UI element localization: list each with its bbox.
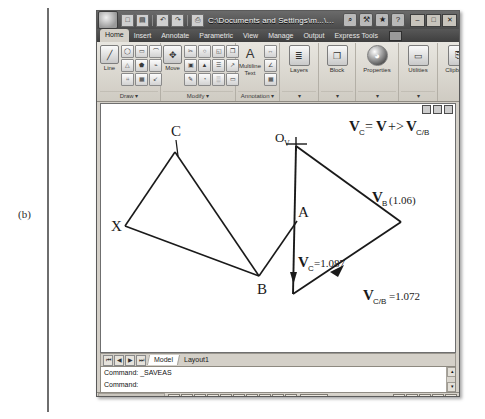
modify-tool-grid: ✂ ○ ◱ ❐ ▣ ▲ ☰ ↗ ✎ ◔ ░ ▭ — [184, 45, 239, 86]
block-label: Block — [330, 67, 345, 74]
plot-icon[interactable]: ⎙ — [191, 14, 204, 27]
dimension-icon[interactable]: ↔ — [264, 45, 277, 58]
toolbar-lock-icon[interactable]: ⚿ — [432, 394, 444, 398]
annotation-scale-icon[interactable]: A — [393, 394, 405, 398]
lineweight-icon[interactable]: ▬ — [285, 394, 297, 398]
layout-tab-model[interactable]: Model — [147, 355, 179, 365]
quick-access-toolbar: □ ▤ ↶ ↷ ⎙ — [120, 14, 204, 27]
infocenter-icon[interactable]: ⚒ — [359, 13, 373, 27]
move-button[interactable]: ✥ Move — [163, 45, 182, 72]
utilities-button[interactable]: ▭ Utilities — [401, 45, 435, 74]
grid-display-icon[interactable]: ▦ — [181, 394, 193, 398]
trim-icon[interactable]: ✂ — [184, 45, 197, 58]
polygon-icon[interactable]: △ — [121, 59, 134, 72]
coordinate-readout[interactable]: 7.5663, 2.7586, 0.0000 — [98, 393, 165, 397]
multiline-text-button[interactable]: A Multiline Text — [238, 45, 262, 77]
svg-text:B: B — [382, 199, 387, 208]
annotation-visibility-icon[interactable]: ▲ — [406, 394, 418, 398]
last-layout-icon[interactable]: ⏭ — [136, 355, 146, 366]
model-space-button[interactable]: MODEL — [300, 394, 328, 398]
new-icon[interactable]: □ — [121, 14, 134, 27]
panel-block: ❐ Block ▾ — [319, 43, 356, 101]
svg-text:C: C — [171, 123, 181, 139]
tab-home[interactable]: Home — [100, 29, 129, 42]
layout-tab-layout1[interactable]: Layout1 — [177, 355, 215, 365]
panel-properties: ◕ Properties ▾ — [356, 43, 399, 101]
fillet-icon[interactable]: ◱ — [212, 45, 225, 58]
scale-icon[interactable]: ☰ — [212, 59, 225, 72]
dynamic-ucs-icon[interactable]: ⬌ — [259, 394, 271, 398]
tab-manage[interactable]: Manage — [263, 31, 298, 40]
tab-insert[interactable]: Insert — [129, 31, 157, 40]
svg-text:+>: +> — [388, 119, 404, 134]
maximize-button[interactable]: □ — [426, 14, 441, 27]
window-controls: – □ ✕ — [410, 14, 457, 27]
dynamic-input-icon[interactable]: ✚ — [272, 394, 284, 398]
ellipse-icon[interactable]: ⌗ — [121, 73, 134, 86]
layers-button[interactable]: ≣ Layers — [282, 45, 316, 74]
mirror-icon[interactable]: ▲ — [198, 59, 211, 72]
scroll-down-icon[interactable]: ▾ — [447, 382, 456, 392]
leader-icon[interactable]: ∠ — [264, 59, 277, 72]
drawing-canvas[interactable]: X C A B O V V C = V +> V C/B V B (1.06) … — [100, 103, 456, 353]
allow-ucs-icon[interactable]: ⌐ — [246, 394, 258, 398]
block-button[interactable]: ❐ Block — [321, 45, 353, 74]
draw-tool-grid: ◯ ▭ ⌒ △ ⬟ ⌁ ⌗ ▦ ↙ — [121, 45, 162, 86]
command-prompt-line[interactable]: Command: — [101, 379, 455, 391]
svg-text:(1.06): (1.06) — [389, 194, 416, 207]
workspace-switch-icon[interactable]: ⚙ — [419, 394, 431, 398]
polyline-icon[interactable]: ⬟ — [135, 59, 148, 72]
redo-icon[interactable]: ↷ — [171, 14, 184, 27]
command-window[interactable]: Command: _SAVEAS Command: ▴ ▾ — [100, 366, 456, 393]
ortho-mode-icon[interactable]: ∟ — [194, 394, 206, 398]
autocad-app-menu-icon[interactable] — [98, 11, 118, 29]
panel-draw-title[interactable]: Draw ▾ — [100, 91, 158, 101]
search-icon[interactable]: ⌕ — [343, 13, 357, 27]
ribbon-overflow-icon[interactable] — [389, 31, 402, 41]
minimize-button[interactable]: – — [410, 14, 425, 27]
tab-view[interactable]: View — [238, 31, 263, 40]
undo-icon[interactable]: ↶ — [156, 14, 169, 27]
object-snap-tracking-icon[interactable]: ∠ — [233, 394, 245, 398]
tab-parametric[interactable]: Parametric — [194, 31, 238, 40]
table-icon[interactable]: ▦ — [264, 73, 277, 86]
properties-label: Properties — [363, 67, 390, 74]
rectangle-icon[interactable]: ▭ — [135, 45, 148, 58]
erase-icon[interactable]: ░ — [212, 73, 225, 86]
svg-text:=: = — [365, 119, 373, 134]
tab-annotate[interactable]: Annotate — [156, 31, 194, 40]
panel-modify-title[interactable]: Modify ▾ — [163, 91, 233, 101]
properties-button[interactable]: ◕ Properties — [358, 45, 396, 74]
close-button[interactable]: ✕ — [442, 14, 457, 27]
communication-center-icon[interactable]: ★ — [375, 13, 389, 27]
panel-annotation: A Multiline Text ↔ ∠ ▦ Annotation ▾ — [236, 43, 280, 101]
autocad-window: □ ▤ ↶ ↷ ⎙ C:\Documents and Settings\m...… — [96, 10, 460, 397]
clean-screen-icon[interactable]: ⛶ — [445, 394, 457, 398]
polar-tracking-icon[interactable]: ∠ — [207, 394, 219, 398]
panel-block-title[interactable]: ▾ — [321, 91, 353, 101]
clipboard-button[interactable]: ⎘ Clipboard — [440, 45, 460, 74]
circle-icon[interactable]: ◯ — [121, 45, 134, 58]
rotate-icon[interactable]: ○ — [198, 45, 211, 58]
explode-icon[interactable]: ✎ — [184, 73, 197, 86]
object-snap-icon[interactable]: □ — [220, 394, 232, 398]
panel-properties-title[interactable]: ▾ — [358, 91, 396, 101]
prev-layout-icon[interactable]: ◀ — [114, 355, 124, 366]
offset-icon[interactable]: ◔ — [198, 73, 211, 86]
tab-express-tools[interactable]: Express Tools — [329, 31, 382, 40]
scroll-up-icon[interactable]: ▴ — [447, 367, 456, 377]
first-layout-icon[interactable]: ⏮ — [103, 355, 113, 366]
line-button[interactable]: ╱ Line — [100, 45, 119, 72]
panel-annotation-title[interactable]: Annotation ▾ — [238, 91, 277, 101]
hatch-icon[interactable]: ▦ — [135, 73, 148, 86]
save-icon[interactable]: ▤ — [136, 14, 149, 27]
help-icon[interactable]: ? — [391, 13, 405, 27]
panel-layers-title[interactable]: ▾ — [282, 91, 316, 101]
next-layout-icon[interactable]: ▶ — [125, 355, 135, 366]
array-icon[interactable]: ▣ — [184, 59, 197, 72]
snap-mode-icon[interactable]: ⬚ — [168, 394, 180, 398]
panel-utilities-title[interactable]: ▾ — [401, 91, 435, 101]
tab-output[interactable]: Output — [298, 31, 329, 40]
command-scrollbar[interactable]: ▴ ▾ — [446, 367, 455, 392]
svg-text:A: A — [298, 204, 309, 220]
